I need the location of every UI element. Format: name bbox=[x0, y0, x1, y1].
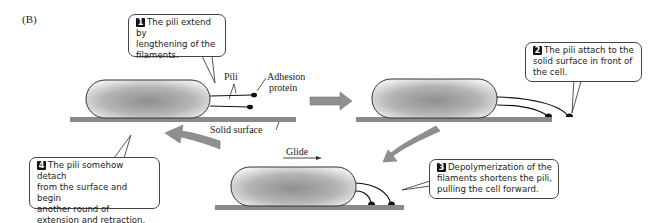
step-3-line-2: filaments shortens the pili, bbox=[437, 173, 552, 184]
adhesion-protein-lower-1 bbox=[247, 105, 253, 110]
solid-surface-label: Solid surface bbox=[210, 124, 263, 135]
stage-3-cell-group bbox=[215, 156, 404, 210]
callout-2-pointer bbox=[572, 78, 582, 113]
glide-arrow-head bbox=[316, 156, 322, 160]
arrow-step2-to-3 bbox=[383, 126, 440, 162]
pilus-lower-2 bbox=[497, 105, 549, 117]
bacterial-cell-2 bbox=[372, 79, 497, 118]
step-4-line-2: from the surface and begin bbox=[37, 182, 153, 204]
step-4-line-3: another round of bbox=[37, 204, 153, 215]
stage-1-cell-group bbox=[70, 78, 296, 130]
callout-step-1: 1The pili extend by lengthening of the f… bbox=[128, 14, 226, 57]
pilus-upper-3 bbox=[356, 183, 391, 205]
step-4-line-4: extension and retraction. bbox=[37, 215, 153, 223]
pilus-upper-2 bbox=[497, 97, 569, 117]
step-3-line-3: pulling the cell forward. bbox=[437, 184, 552, 195]
step-1-line-1: The pili extend by bbox=[136, 17, 211, 38]
adhesion-protein-2a bbox=[545, 114, 552, 118]
callout-3-pointer bbox=[402, 181, 430, 190]
bacterial-cell-1 bbox=[86, 80, 210, 118]
callout-4-pointer bbox=[114, 135, 131, 158]
step-3-badge: 3 bbox=[437, 163, 446, 172]
adhesion-pointer-line bbox=[257, 78, 266, 91]
stage-2-cell-group bbox=[356, 79, 573, 122]
callout-step-3: 3Depolymerization of the filaments short… bbox=[429, 159, 559, 199]
step-3-line-1: Depolymerization of the bbox=[448, 162, 552, 172]
callout-step-2: 2The pili attach to the solid surface in… bbox=[525, 42, 642, 82]
step-1-line-2: lengthening of the bbox=[136, 39, 219, 50]
arrow-step1-to-2 bbox=[310, 92, 352, 110]
step-4-badge: 4 bbox=[37, 161, 46, 170]
pilus-upper-1 bbox=[210, 95, 253, 96]
bacterial-cell-3 bbox=[231, 167, 356, 206]
adhesion-label-line2: protein bbox=[267, 82, 305, 93]
pilus-lower-1 bbox=[210, 106, 250, 107]
step-4-line-1: The pili somehow detach bbox=[37, 160, 123, 181]
pili-label: Pili bbox=[224, 71, 238, 82]
step-2-line-1: The pili attach to the bbox=[544, 45, 634, 55]
callout-step-4: 4The pili somehow detach from the surfac… bbox=[29, 157, 160, 209]
solid-surface-pointer-line bbox=[276, 122, 279, 130]
step-2-badge: 2 bbox=[533, 46, 542, 55]
pili-pointer-lines bbox=[229, 84, 236, 99]
glide-label: Glide bbox=[286, 146, 308, 157]
adhesion-protein-label: Adhesion protein bbox=[267, 71, 305, 93]
adhesion-protein-3a bbox=[368, 202, 375, 206]
adhesion-protein-3b bbox=[388, 202, 395, 206]
step-2-line-3: the cell. bbox=[533, 67, 635, 78]
step-1-line-3: filaments. bbox=[136, 50, 219, 61]
adhesion-protein-upper-1 bbox=[251, 93, 257, 98]
step-1-badge: 1 bbox=[136, 18, 145, 27]
step-2-line-2: solid surface in front of bbox=[533, 56, 635, 67]
adhesion-label-line1: Adhesion bbox=[267, 71, 305, 82]
